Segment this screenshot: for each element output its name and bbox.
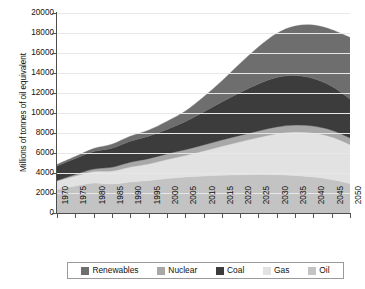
- y-axis-tick-label: 16000: [31, 49, 54, 57]
- x-axis-tick-label: 2015: [226, 186, 235, 220]
- legend-item-coal[interactable]: Coal: [216, 266, 244, 275]
- x-axis-tick-mark: [94, 214, 95, 218]
- legend-item-oil[interactable]: Oil: [308, 266, 329, 275]
- legend-label: Coal: [227, 266, 244, 275]
- gridline: [57, 73, 350, 74]
- x-axis-tick-label: 2020: [244, 186, 253, 220]
- energy-mix-area-chart: Millions of tonnes of oil equivalent 020…: [0, 0, 365, 289]
- gridline: [57, 173, 350, 174]
- x-axis-tick-mark: [258, 214, 259, 218]
- y-axis-tick-label: 20000: [31, 9, 54, 17]
- legend-item-nuclear[interactable]: Nuclear: [157, 266, 197, 275]
- y-axis-tick-label: 14000: [31, 69, 54, 77]
- legend-label: Nuclear: [168, 266, 197, 275]
- x-axis-tick-label: 1980: [98, 186, 107, 220]
- x-axis-tick-mark: [75, 214, 76, 218]
- x-axis-tick-label: 2000: [171, 186, 180, 220]
- gridline: [57, 53, 350, 54]
- x-axis-tick-mark: [277, 214, 278, 218]
- y-axis-tick-labels: 0200040006000800010000120001400016000180…: [18, 0, 54, 289]
- y-axis-tick-label: 18000: [31, 29, 54, 37]
- x-axis-tick-mark: [185, 214, 186, 218]
- legend-label: Oil: [319, 266, 329, 275]
- x-axis-tick-mark: [112, 214, 113, 218]
- x-axis-tick-mark: [222, 214, 223, 218]
- x-axis-tick-label: 2025: [262, 186, 271, 220]
- legend-swatch-icon: [263, 267, 271, 275]
- x-axis-tick-label: 1990: [134, 186, 143, 220]
- legend-item-renewables[interactable]: Renewables: [81, 266, 138, 275]
- legend-swatch-icon: [216, 267, 224, 275]
- x-axis-tick-label: 1995: [153, 186, 162, 220]
- x-axis-tick-label: 2050: [354, 186, 363, 220]
- x-axis-tick-mark: [332, 214, 333, 218]
- x-axis-tick-mark: [167, 214, 168, 218]
- legend-label: Gas: [274, 266, 289, 275]
- gridline: [57, 133, 350, 134]
- x-axis-tick-label: 1985: [116, 186, 125, 220]
- chart-legend: RenewablesNuclearCoalGasOil: [67, 262, 344, 279]
- x-axis-tick-label: 1975: [79, 186, 88, 220]
- gridline: [57, 13, 350, 14]
- x-axis-tick-label: 2045: [336, 186, 345, 220]
- gridline: [57, 93, 350, 94]
- x-axis-tick-label: 2010: [208, 186, 217, 220]
- x-axis-tick-label: 2030: [281, 186, 290, 220]
- y-axis-tick-label: 10000: [31, 109, 54, 117]
- x-axis-tick-label: 1970: [61, 186, 70, 220]
- legend-swatch-icon: [308, 267, 316, 275]
- x-axis-tick-mark: [295, 214, 296, 218]
- legend-label: Renewables: [92, 266, 138, 275]
- legend-item-gas[interactable]: Gas: [263, 266, 289, 275]
- x-axis-tick-mark: [350, 214, 351, 218]
- x-axis-tick-mark: [57, 214, 58, 218]
- x-axis-tick-mark: [130, 214, 131, 218]
- gridline: [57, 153, 350, 154]
- legend-swatch-icon: [81, 267, 89, 275]
- x-axis-tick-label: 2005: [189, 186, 198, 220]
- x-axis-tick-mark: [149, 214, 150, 218]
- x-axis-tick-label: 2040: [317, 186, 326, 220]
- y-axis-tick-label: 12000: [31, 89, 54, 97]
- legend-swatch-icon: [157, 267, 165, 275]
- x-axis-tick-mark: [240, 214, 241, 218]
- x-axis-tick-label: 2035: [299, 186, 308, 220]
- x-axis-tick-mark: [204, 214, 205, 218]
- gridline: [57, 33, 350, 34]
- x-axis-tick-mark: [313, 214, 314, 218]
- gridline: [57, 113, 350, 114]
